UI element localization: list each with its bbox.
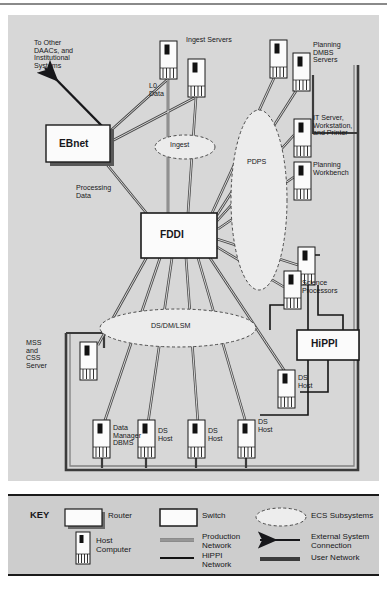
host-data-manager-dbms[interactable] <box>93 420 110 458</box>
pdps-oval <box>231 110 287 290</box>
host-ds-host-3[interactable] <box>238 420 255 458</box>
label-it-server: IT Server, Workstation, and Printer <box>313 115 352 138</box>
label-ds-host-right: DS Host <box>298 375 313 390</box>
host-ingest-server-2[interactable] <box>188 59 205 97</box>
label-data-manager: Data Manager DBMS <box>113 425 141 448</box>
label-planning-dbms: Planning DMBS Servers <box>313 42 341 65</box>
label-to-other-daacs: To Other DAACs, and Institutional System… <box>34 40 73 71</box>
key-switch-icon <box>160 509 197 526</box>
host-ingest-server-1[interactable] <box>160 41 177 79</box>
oval-pdps-label: PDPS <box>247 159 266 167</box>
page-top-rule <box>0 3 387 5</box>
key-label-ecs-subsystems: ECS Subsystems <box>311 512 373 521</box>
key-label-user-network: User Network <box>311 554 359 563</box>
oval-dsdmlsm-label: DS/DM/LSM <box>151 323 190 331</box>
label-l0-data: L0 Data <box>149 83 164 98</box>
host-ds-host-right[interactable] <box>278 370 295 408</box>
host-planning-dbms-2[interactable] <box>293 53 310 91</box>
label-planning-wb: Planning Workbench <box>313 162 349 177</box>
key-legend-panel: KEY <box>8 494 379 576</box>
label-ingest-servers: Ingest Servers <box>186 37 232 45</box>
host-mss-css-server[interactable] <box>80 342 97 380</box>
key-label-host-computer: Host Computer <box>96 537 131 555</box>
host-it-server[interactable] <box>294 119 311 157</box>
network-diagram-panel: To Other DAACs, and Institutional System… <box>8 15 379 481</box>
label-science-proc: Science Processors <box>302 280 337 295</box>
oval-ingest-label: Ingest <box>170 142 189 150</box>
label-processing-data: Processing Data <box>76 185 111 200</box>
label-ds-host-3: DS Host <box>258 419 273 434</box>
diagram-canvas <box>8 15 379 481</box>
key-label-router: Router <box>108 512 132 521</box>
external-connection-arrow <box>45 68 103 127</box>
key-label-external-connection: External System Connection <box>311 533 369 551</box>
label-mss-css: MSS and CSS Server <box>26 340 47 371</box>
host-ds-host-2[interactable] <box>188 420 205 458</box>
label-ds-host-2: DS Host <box>208 428 223 443</box>
key-label-hippi-network: HiPPI Network <box>202 552 231 570</box>
host-science-processor-2[interactable] <box>284 271 301 309</box>
key-label-production-network: Production Network <box>202 533 240 551</box>
key-router-icon <box>65 509 105 529</box>
figure-page: To Other DAACs, and Institutional System… <box>0 0 387 610</box>
key-ecs-subsystem-icon <box>256 508 306 526</box>
router-ebnet-label: EBnet <box>59 138 88 149</box>
key-host-computer-icon <box>76 532 90 564</box>
switch-hippi-label: HiPPI <box>311 338 338 349</box>
host-planning-workbench[interactable] <box>294 162 311 200</box>
switch-fddi-label: FDDI <box>160 229 184 240</box>
key-label-switch: Switch <box>202 512 226 521</box>
host-planning-dbms-1[interactable] <box>270 40 287 78</box>
label-ds-host-1: DS Host <box>158 428 173 443</box>
